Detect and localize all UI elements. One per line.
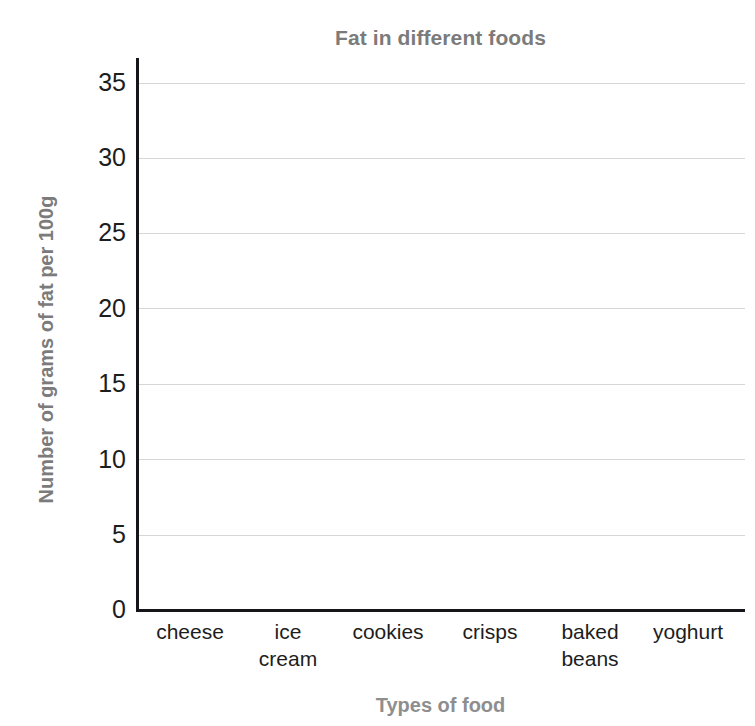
- y-tick-label-25: 25: [66, 220, 126, 245]
- y-tick-label-0: 0: [66, 597, 126, 622]
- gridline-35: [136, 83, 745, 84]
- x-axis-title: Types of food: [136, 694, 745, 717]
- y-tick-label-20: 20: [66, 296, 126, 321]
- x-tick-label-baked-beans-line1: baked: [561, 620, 618, 643]
- gridline-30: [136, 158, 745, 159]
- gridline-20: [136, 308, 745, 309]
- x-tick-label-yoghurt-line1: yoghurt: [653, 620, 723, 643]
- y-axis-line: [136, 58, 139, 612]
- x-tick-label-ice-cream-line2: cream: [228, 646, 348, 673]
- y-tick-label-30: 30: [66, 145, 126, 170]
- y-tick-label-35: 35: [66, 70, 126, 95]
- gridline-5: [136, 535, 745, 536]
- plot-area: [136, 60, 745, 610]
- bar-chart-figure: Fat in different foods Number of grams o…: [0, 0, 755, 726]
- gridline-10: [136, 459, 745, 460]
- gridline-25: [136, 233, 745, 234]
- x-tick-label-cheese-line1: cheese: [156, 620, 224, 643]
- gridline-15: [136, 384, 745, 385]
- x-axis-line: [136, 609, 745, 612]
- y-axis-tick-labels: 35 30 25 20 15 10 5 0: [0, 0, 126, 726]
- x-tick-label-crisps-line1: crisps: [463, 620, 518, 643]
- chart-title: Fat in different foods: [136, 26, 745, 50]
- x-tick-label-yoghurt: yoghurt: [628, 619, 748, 646]
- y-tick-label-15: 15: [66, 371, 126, 396]
- y-tick-label-10: 10: [66, 447, 126, 472]
- x-axis-tick-labels: cheese ice cream cookies crisps baked be…: [136, 619, 755, 689]
- x-tick-label-baked-beans-line2: beans: [530, 646, 650, 673]
- y-tick-label-5: 5: [66, 522, 126, 547]
- x-tick-label-ice-cream-line1: ice: [275, 620, 302, 643]
- x-tick-label-cookies-line1: cookies: [352, 620, 423, 643]
